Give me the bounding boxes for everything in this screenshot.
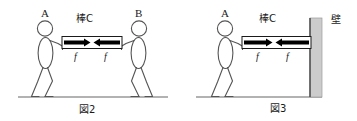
person-b-front-leg [132, 68, 140, 97]
physics-diagram-canvas: A 棒C B f f 図2 A 棒C 壁 f f 図3 [0, 0, 357, 121]
person-a-fig3 [212, 21, 244, 97]
caption-fig3: 図3 [270, 104, 286, 114]
label-force-right-fig3: f [286, 52, 289, 62]
label-person-b-fig2: B [135, 8, 142, 19]
person-a-fig2 [32, 21, 64, 97]
label-force-left-fig3: f [256, 52, 259, 62]
person-b-back-leg [141, 68, 153, 97]
label-person-a-fig2: A [41, 8, 49, 19]
person-a-front-leg [45, 68, 53, 97]
caption-fig2: 図2 [79, 105, 95, 115]
person-b-torso [131, 38, 146, 69]
person-b-head [131, 21, 146, 36]
label-rod-c-fig3: 棒C [259, 14, 276, 24]
diagram-svg [0, 0, 357, 121]
person-a-fig3-front-leg [225, 68, 233, 97]
figure-2-group [18, 21, 168, 97]
figure-3-group [196, 18, 322, 97]
label-person-a-fig3: A [221, 8, 229, 19]
person-a-fig3-torso [218, 38, 233, 69]
label-force-left-fig2: f [74, 52, 77, 62]
person-a-head [37, 21, 52, 36]
label-rod-c-fig2: 棒C [76, 14, 93, 24]
person-a-fig3-back-leg [212, 68, 224, 97]
label-wall: 壁 [331, 15, 341, 25]
person-a-back-leg [32, 68, 44, 97]
label-force-right-fig2: f [104, 52, 107, 62]
person-a-fig3-head [217, 21, 232, 36]
wall-body [310, 18, 322, 97]
person-b-fig2 [121, 21, 153, 97]
person-a-torso [38, 38, 53, 69]
